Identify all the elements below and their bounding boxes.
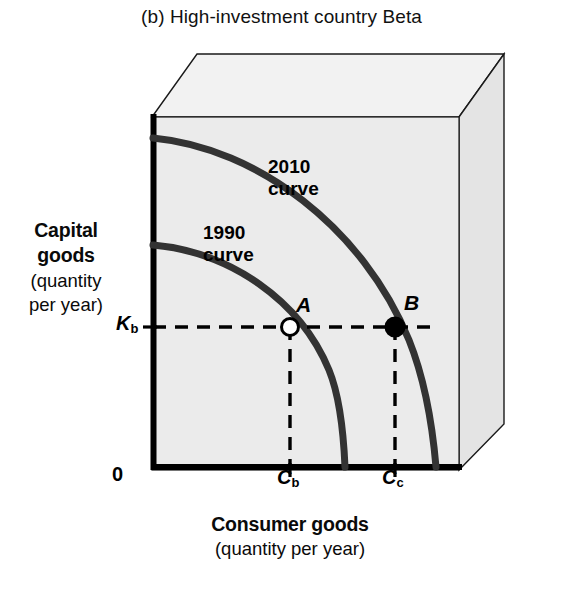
curve-label-2010: 2010 curve [268, 156, 319, 201]
x-axis-title-sub: (quantity per year) [120, 537, 460, 561]
x-tick-label-cb-sub: b [291, 475, 299, 490]
x-axis-title: Consumer goods (quantity per year) [120, 512, 460, 561]
data-point-a [282, 319, 299, 336]
x-axis-title-bold: Consumer goods [120, 512, 460, 537]
x-tick-label-cc: Cc [382, 466, 404, 489]
y-axis-title: Capital goods (quantity per year) [2, 218, 130, 317]
y-tick-label-kb-letter: K [116, 312, 130, 334]
figure-container: (b) High-investment country Beta C [0, 0, 563, 595]
data-point-b [386, 318, 405, 337]
x-tick-label-cc-letter: C [382, 466, 396, 488]
origin-label: 0 [112, 463, 123, 486]
y-axis-title-line1: Capital [2, 218, 130, 243]
y-axis-title-line2: goods [2, 243, 130, 268]
x-tick-label-cb-letter: C [277, 466, 291, 488]
point-label-a: A [296, 293, 311, 317]
curve-label-1990: 1990 curve [203, 222, 254, 267]
box-right-face [459, 54, 504, 470]
y-tick-label-kb-sub: b [130, 321, 138, 336]
point-label-b: B [404, 291, 419, 315]
x-tick-label-cb: Cb [277, 466, 299, 489]
box-top-face [152, 54, 504, 117]
y-axis-title-sub1: (quantity [2, 269, 130, 293]
y-tick-label-kb: Kb [116, 312, 138, 335]
y-axis-title-sub2: per year) [2, 293, 130, 317]
x-tick-label-cc-sub: c [396, 475, 403, 490]
